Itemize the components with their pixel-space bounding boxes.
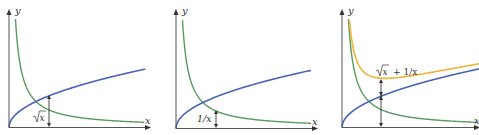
marker-arrowhead-up-icon bbox=[379, 79, 383, 83]
marker-arrowhead-down-icon bbox=[47, 123, 51, 127]
sqrt-curve bbox=[9, 69, 145, 127]
y-axis-label: y bbox=[181, 5, 188, 16]
inverse-curve bbox=[182, 20, 311, 123]
function-sum-diagram: y x x y x 1/x y x bbox=[0, 0, 479, 135]
x-axis-label: x bbox=[474, 115, 479, 126]
panel-inverse: y x 1/x bbox=[174, 5, 319, 131]
sqrt-x-label: x bbox=[33, 111, 46, 123]
x-axis-label: x bbox=[312, 116, 318, 127]
sqrt-curve bbox=[342, 69, 479, 128]
marker-arrowhead-down-icon bbox=[379, 123, 383, 127]
panel-sum: y x x + 1/x bbox=[340, 5, 479, 130]
inverse-curve bbox=[15, 19, 144, 122]
marker-arrowhead-down-icon bbox=[214, 124, 218, 128]
inverse-x-label: 1/x bbox=[197, 113, 212, 124]
y-axis-arrowhead-icon bbox=[7, 9, 12, 15]
svg-text:+ 1/x: + 1/x bbox=[393, 67, 417, 77]
y-axis-arrowhead-icon bbox=[340, 9, 345, 15]
svg-text:x: x bbox=[40, 113, 45, 123]
svg-text:x: x bbox=[383, 67, 388, 77]
panel-sqrt: y x x bbox=[7, 5, 152, 130]
y-axis-label: y bbox=[14, 5, 21, 16]
sum-label: x + 1/x bbox=[376, 65, 417, 77]
x-axis-label: x bbox=[145, 115, 151, 126]
y-axis-label: y bbox=[347, 5, 354, 16]
y-axis-arrowhead-icon bbox=[174, 9, 179, 15]
